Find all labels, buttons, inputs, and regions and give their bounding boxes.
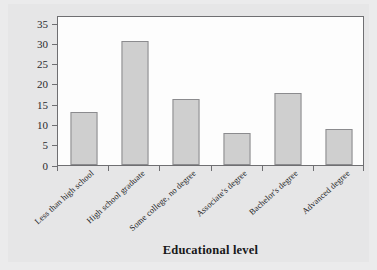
bar-slot <box>58 17 109 165</box>
figure: 05101520253035 Percentage Less than high… <box>0 0 377 270</box>
plot-area <box>57 16 364 166</box>
x-axis-label-text: Associate's degree <box>194 168 249 219</box>
x-axis-label-text: Bachelor's degree <box>247 168 300 217</box>
x-axis-labels: Less than high schoolHigh school graduat… <box>57 168 364 240</box>
x-axis-label-text: Advanced degree <box>299 168 351 216</box>
x-axis-title: Educational level <box>57 243 364 258</box>
bars-layer <box>58 17 363 165</box>
bar <box>70 112 97 166</box>
